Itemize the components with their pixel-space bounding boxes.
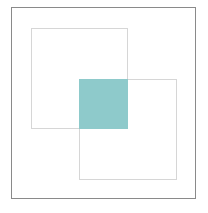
overlap-region (79, 79, 128, 129)
